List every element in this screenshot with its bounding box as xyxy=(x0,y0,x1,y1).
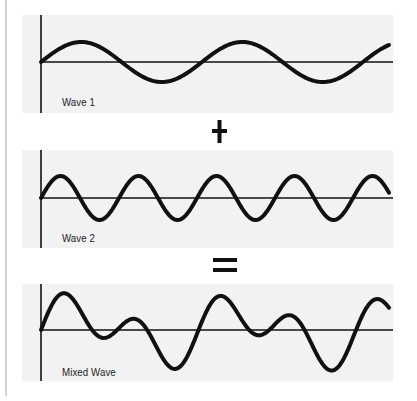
mixed-wave-label: Mixed Wave xyxy=(62,366,116,378)
wave2-label: Wave 2 xyxy=(62,232,95,244)
wave-diagram xyxy=(0,0,417,401)
wave1-label: Wave 1 xyxy=(62,96,95,108)
equals-operator xyxy=(213,258,237,272)
plus-operator xyxy=(212,120,227,143)
